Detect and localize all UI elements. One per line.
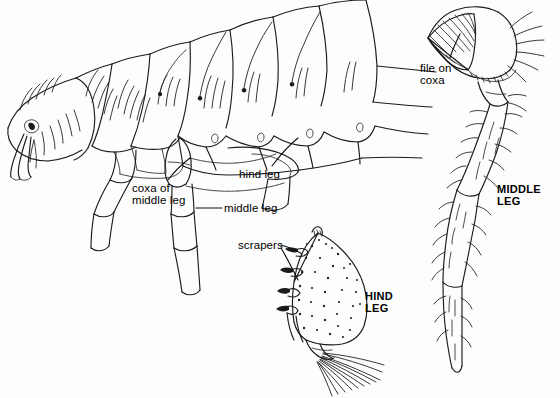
coxa-serrations: [468, 70, 516, 83]
illustration-figure: hind leg coxa of middle leg middle leg f…: [0, 0, 560, 398]
middle-leg-trochanter: [478, 80, 526, 111]
leader-coxa-middle-leg: [168, 158, 190, 180]
coxa-bristles: [508, 12, 544, 82]
flea-abdomen-segment-3: [273, 6, 327, 146]
flea-body-lateral-view: [8, 0, 436, 295]
middle-leg-femur: [447, 102, 522, 196]
caption-hind-leg: HIND LEG: [365, 290, 393, 314]
line-drawing-canvas: [0, 0, 560, 398]
flea-head: [8, 75, 95, 180]
file-hatching: [430, 13, 475, 69]
flea-abdomen-segment-1: [178, 30, 233, 147]
leader-lines: [168, 34, 460, 280]
flea-abdomen-sternites: [178, 136, 422, 175]
hind-leg-bristle-tuft: [317, 353, 384, 396]
middle-leg-tarsus: [434, 282, 472, 372]
flea-front-leg: [91, 150, 136, 251]
label-file-on-coxa: file on coxa: [420, 62, 451, 87]
flea-abdomen-segment-4: [319, 0, 436, 142]
flea-prothorax: [76, 64, 117, 152]
middle-leg-tibia: [432, 190, 491, 287]
flea-abdomen-segment-2: [226, 17, 278, 147]
label-middle-leg: middle leg: [224, 202, 277, 214]
flea-metathorax: [131, 42, 190, 149]
leader-scrapers-2: [281, 248, 298, 280]
label-hind-leg: hind leg: [239, 168, 280, 180]
caption-middle-leg: MIDDLE LEG: [497, 183, 541, 207]
label-coxa-of-middle-leg: coxa of middle leg: [132, 182, 185, 207]
hind-leg-trochanter: [306, 340, 334, 359]
label-scrapers: scrapers: [238, 239, 283, 251]
flea-mesothorax: [112, 54, 150, 152]
